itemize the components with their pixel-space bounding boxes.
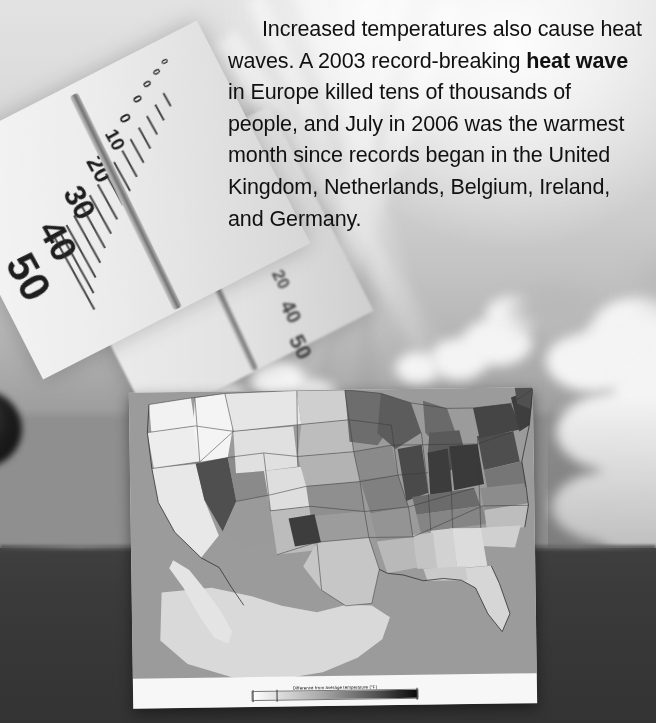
horizon-shelf xyxy=(548,395,656,550)
region-texas xyxy=(303,537,380,606)
region-florida xyxy=(461,566,510,633)
region-wyoming xyxy=(233,426,298,473)
us-choropleth-map xyxy=(129,387,537,683)
temperature-anomaly-map-card: Difference from average temperature (°F) xyxy=(129,387,537,709)
paragraph-part-2: in Europe killed tens of thousands of pe… xyxy=(228,80,624,230)
legend-color-scale xyxy=(251,689,418,701)
body-paragraph: Increased temperatures also cause heat w… xyxy=(228,14,646,235)
region-wisconsin xyxy=(377,393,422,450)
map-legend: Difference from average temperature (°F) xyxy=(133,673,537,709)
region-north-dakota xyxy=(297,390,349,425)
region-kansas xyxy=(306,482,364,517)
paragraph-text: Increased temperatures also cause heat w… xyxy=(228,14,646,235)
region-nebraska xyxy=(298,452,360,487)
region-south-dakota xyxy=(297,420,353,457)
region-oregon xyxy=(147,426,200,469)
textbook-page: 0 0 0 20 0 20 40 50 50 40 30 20 10 0 0 0 xyxy=(0,0,656,723)
bold-term-heat-wave: heat wave xyxy=(526,49,628,73)
